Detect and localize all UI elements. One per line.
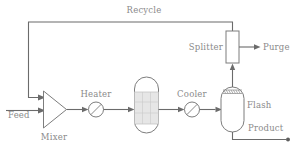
- unit-splitter: Splitter: [189, 31, 239, 63]
- unit-mixer: Mixer: [41, 91, 68, 142]
- flash-vapor-arrowhead: [230, 64, 235, 71]
- mixer-triangle: [44, 91, 67, 128]
- stream-recycle: Recycle: [29, 5, 233, 100]
- stream-cooler-out: [200, 107, 223, 112]
- stream-feed: Feed: [6, 108, 46, 120]
- product-pipe: [233, 132, 287, 140]
- splitter-box: [226, 31, 239, 63]
- product-label: Product: [248, 123, 284, 133]
- cooler-label: Cooler: [177, 89, 207, 99]
- process-flow-diagram: Recycle Feed Mixer Heater: [0, 0, 299, 146]
- purge-arrowhead: [254, 44, 261, 49]
- splitter-label: Splitter: [189, 42, 224, 52]
- stream-heater-out: [104, 107, 135, 112]
- stream-mixer-out: [67, 107, 89, 112]
- product-terminator-dot: [286, 138, 290, 142]
- recycle-pipe: [29, 22, 233, 98]
- mixer-out-arrowhead: [82, 107, 89, 112]
- unit-cooler: Cooler: [177, 89, 207, 117]
- reactor-packed-bed: [135, 92, 159, 124]
- pfd-canvas: Recycle Feed Mixer Heater: [0, 0, 299, 146]
- stream-purge: Purge: [239, 42, 290, 52]
- reactor-out-arrowhead: [178, 107, 185, 112]
- heater-label: Heater: [80, 89, 112, 99]
- stream-reactor-out: [159, 107, 185, 112]
- stream-flash-vapor: [230, 64, 235, 88]
- unit-reactor: [135, 77, 159, 133]
- mixer-label: Mixer: [41, 132, 68, 142]
- unit-heater: Heater: [80, 89, 112, 117]
- purge-label: Purge: [263, 42, 290, 52]
- feed-label: Feed: [8, 110, 30, 120]
- flash-label: Flash: [247, 100, 272, 110]
- heater-out-arrowhead: [128, 107, 135, 112]
- recycle-label: Recycle: [127, 5, 162, 15]
